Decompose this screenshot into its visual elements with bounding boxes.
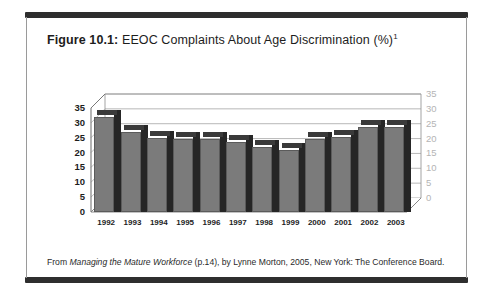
bar-side-face (404, 120, 411, 212)
figure-number-label: Figure 10.1: (47, 33, 118, 47)
frame-top-bar (25, 12, 468, 18)
y-tick-right-15: 15 (426, 148, 448, 158)
y-tick-left-15: 15 (63, 162, 85, 172)
figure-caption-text: EEOC Complaints About Age Discrimination… (122, 33, 393, 47)
bar-top-face (334, 130, 354, 135)
y-tick-right-20: 20 (426, 134, 448, 144)
y-tick-right-5: 5 (426, 178, 448, 188)
y-tick-left-35: 35 (63, 103, 85, 113)
bar-front-face (305, 139, 325, 212)
y-tick-left-25: 25 (63, 133, 85, 143)
bar-top-face (97, 110, 117, 115)
y-tick-left-30: 30 (63, 118, 85, 128)
bar-2001[interactable] (331, 130, 358, 212)
bar-top-face (361, 120, 381, 125)
bar-front-face (252, 147, 272, 212)
source-note: From Managing the Mature Workforce (p.14… (47, 257, 444, 267)
x-tick-2003: 2003 (380, 219, 412, 227)
bar-front-face (384, 127, 404, 212)
bar-1993[interactable] (121, 125, 148, 212)
bar-top-face (150, 131, 170, 136)
bar-1995[interactable] (173, 132, 200, 212)
y-tick-left-20: 20 (63, 148, 85, 158)
bar-front-face (279, 150, 299, 212)
source-prefix: From (47, 257, 69, 267)
bar-front-face (226, 142, 246, 212)
bar-top-face (282, 143, 302, 148)
bar-front-face (173, 139, 193, 212)
bar-front-face (147, 138, 167, 212)
frame-bottom-bar (25, 277, 468, 283)
y-tick-right-30: 30 (426, 104, 448, 114)
bar-top-face (176, 132, 196, 137)
bar-top-face (387, 120, 407, 125)
bar-2000[interactable] (305, 132, 332, 212)
bar-top-face (124, 125, 144, 130)
bar-front-face (331, 137, 351, 212)
bar-top-face (203, 132, 223, 137)
bar-1996[interactable] (200, 132, 227, 212)
y-tick-left-0: 0 (63, 207, 85, 217)
bar-2003[interactable] (384, 120, 411, 212)
bar-front-face (358, 127, 378, 212)
figure-frame: Figure 10.1: EEOC Complaints About Age D… (25, 12, 468, 283)
figure-title: Figure 10.1: EEOC Complaints About Age D… (47, 32, 398, 47)
bar-front-face (121, 132, 141, 212)
source-rest: (p.14), by Lynne Morton, 2005, New York:… (192, 257, 444, 267)
bar-top-face (229, 135, 249, 140)
chart-plot-area: 05101520253035 05101520253035 1992199319… (25, 64, 468, 249)
y-tick-right-10: 10 (426, 163, 448, 173)
bar-1999[interactable] (279, 143, 306, 212)
bar-2002[interactable] (358, 120, 385, 212)
y-tick-right-35: 35 (426, 89, 448, 99)
y-tick-right-25: 25 (426, 119, 448, 129)
bar-1998[interactable] (252, 140, 279, 212)
bar-1994[interactable] (147, 131, 174, 212)
bar-top-face (255, 140, 275, 145)
source-title: Managing the Mature Workforce (69, 257, 192, 267)
y-tick-left-10: 10 (63, 177, 85, 187)
bar-front-face (200, 139, 220, 212)
y-tick-left-5: 5 (63, 192, 85, 202)
bar-front-face (94, 117, 114, 212)
figure-caption-superscript: 1 (393, 32, 398, 41)
bar-1997[interactable] (226, 135, 253, 212)
y-tick-right-0: 0 (426, 193, 448, 203)
bar-1992[interactable] (94, 110, 121, 212)
bar-top-face (308, 132, 328, 137)
